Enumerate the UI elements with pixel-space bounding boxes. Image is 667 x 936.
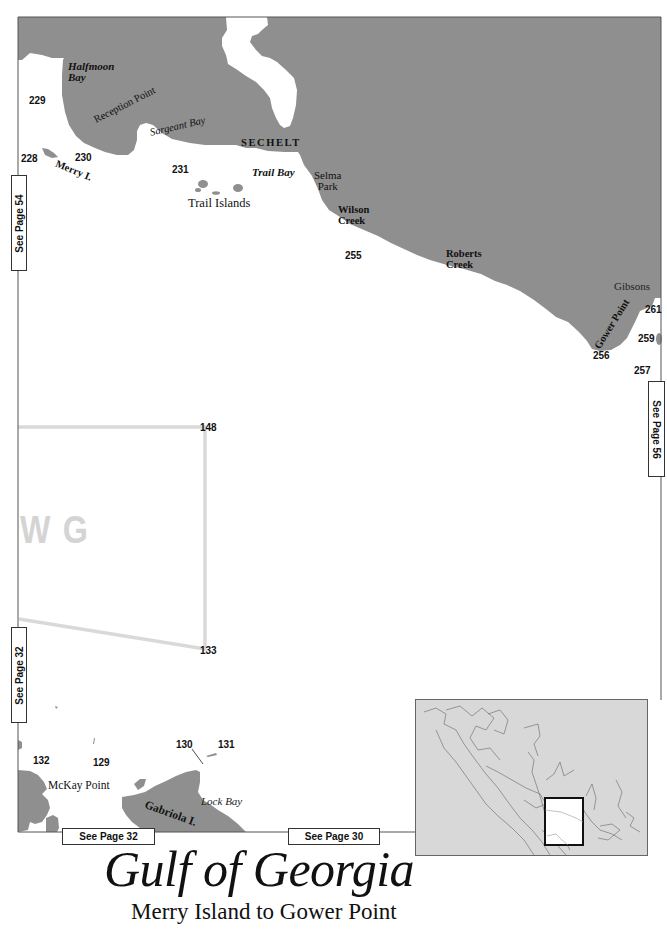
waypoint-129: 129 bbox=[93, 758, 110, 768]
rock-near-left bbox=[55, 706, 58, 709]
waypoint-132: 132 bbox=[33, 756, 50, 766]
inset-current-area-box bbox=[545, 798, 583, 845]
waypoint-259: 259 bbox=[638, 334, 655, 344]
waypoint-229: 229 bbox=[29, 96, 46, 106]
inset-locator-map bbox=[415, 699, 648, 856]
label-trail-islands: Trail Islands bbox=[188, 197, 250, 210]
waypoint-130: 130 bbox=[176, 740, 193, 750]
waypoint-261: 261 bbox=[645, 305, 662, 315]
gabriola-north-islet bbox=[134, 779, 146, 790]
rock-131 bbox=[206, 753, 217, 757]
label-gibsons: Gibsons bbox=[614, 281, 650, 292]
left-edge-islet bbox=[18, 740, 22, 750]
mckay-point-landmass bbox=[18, 770, 50, 832]
label-lock-bay: Lock Bay bbox=[201, 796, 242, 807]
label-mckay-point: McKay Point bbox=[48, 780, 110, 791]
waypoint-257: 257 bbox=[634, 366, 651, 376]
label-sechelt: SECHELT bbox=[241, 138, 301, 149]
waypoint-133: 133 bbox=[200, 646, 217, 656]
rock-near-129 bbox=[93, 738, 95, 744]
merry-island bbox=[42, 148, 58, 158]
waypoint-255: 255 bbox=[345, 251, 362, 261]
label-wilson-creek: Wilson Creek bbox=[338, 204, 369, 226]
inset-coastline bbox=[416, 700, 647, 855]
label-trail-bay: Trail Bay bbox=[252, 167, 295, 178]
waypoint-130-leader bbox=[192, 749, 203, 764]
waypoint-148: 148 bbox=[200, 423, 217, 433]
trail-island-2 bbox=[195, 188, 201, 192]
trail-island-4 bbox=[233, 184, 243, 192]
waypoint-256: 256 bbox=[593, 351, 610, 361]
label-roberts-creek: Roberts Creek bbox=[446, 248, 482, 270]
see-page-32-left-link[interactable]: See Page 32 bbox=[11, 627, 27, 723]
waypoint-228: 228 bbox=[21, 154, 38, 164]
chart-area-label-wg: W G bbox=[20, 509, 90, 552]
trail-island-3 bbox=[212, 191, 220, 195]
see-page-56-link[interactable]: See Page 56 bbox=[648, 381, 665, 477]
map-subtitle: Merry Island to Gower Point bbox=[131, 900, 397, 923]
waypoint-231: 231 bbox=[172, 165, 189, 175]
label-halfmoon-bay: Halfmoon Bay bbox=[68, 61, 114, 83]
label-selma-park: Selma Park bbox=[314, 170, 342, 192]
waypoint-131: 131 bbox=[218, 740, 235, 750]
trail-island-1 bbox=[198, 180, 208, 188]
mckay-islet bbox=[46, 815, 59, 832]
see-page-54-link[interactable]: See Page 54 bbox=[11, 175, 27, 271]
map-title: Gulf of Georgia bbox=[104, 844, 414, 894]
waypoint-230: 230 bbox=[75, 153, 92, 163]
